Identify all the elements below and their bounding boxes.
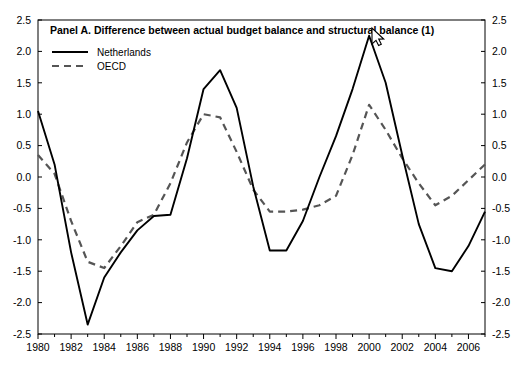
- x-tick-label: 1984: [93, 341, 117, 353]
- chart-figure: 2.52.01.51.00.50.0-0.5-1.0-1.5-2.0-2.5 2…: [0, 0, 516, 375]
- x-axis-labels: 1980198219841986198819901992199419961998…: [26, 341, 480, 353]
- x-tick-label: 2006: [457, 341, 481, 353]
- y-tick-label-right: -2.0: [492, 296, 510, 308]
- y-tick-label-right: -1.5: [492, 265, 510, 277]
- y-tick-label-right: 0.0: [492, 171, 507, 183]
- y-tick-label-left: 0.0: [16, 171, 31, 183]
- x-tick-label: 1980: [26, 341, 50, 353]
- x-tick-label: 1986: [126, 341, 150, 353]
- x-tick-label: 1990: [192, 341, 216, 353]
- y-tick-label-left: 1.0: [16, 108, 31, 120]
- x-tick-label: 1998: [324, 341, 348, 353]
- y-tick-label-right: 2.5: [492, 14, 507, 26]
- y-axis-right-labels: 2.52.01.51.00.50.0-0.5-1.0-1.5-2.0-2.5: [492, 14, 510, 340]
- y-tick-label-right: -2.5: [492, 328, 510, 340]
- y-tick-label-right: -1.0: [492, 234, 510, 246]
- x-axis-ticks: [38, 334, 485, 339]
- y-tick-label-right: 1.0: [492, 108, 507, 120]
- legend-label-netherlands: Netherlands: [97, 47, 151, 58]
- budget-balance-line-chart: 2.52.01.51.00.50.0-0.5-1.0-1.5-2.0-2.5 2…: [0, 0, 516, 375]
- legend-label-oecd: OECD: [97, 61, 126, 72]
- y-tick-label-left: 2.5: [16, 14, 31, 26]
- y-tick-label-left: -1.5: [13, 265, 31, 277]
- x-tick-label: 2002: [391, 341, 415, 353]
- y-tick-label-right: 1.5: [492, 77, 507, 89]
- y-tick-label-right: 0.5: [492, 139, 507, 151]
- y-tick-label-left: -1.0: [13, 234, 31, 246]
- x-tick-label: 1992: [225, 341, 249, 353]
- x-tick-label: 2004: [424, 341, 448, 353]
- x-tick-label: 1988: [159, 341, 183, 353]
- y-tick-label-left: -2.0: [13, 296, 31, 308]
- y-tick-label-left: -0.5: [13, 202, 31, 214]
- x-tick-label: 1982: [59, 341, 83, 353]
- y-tick-label-right: -0.5: [492, 202, 510, 214]
- y-axis-left-labels: 2.52.01.51.00.50.0-0.5-1.0-1.5-2.0-2.5: [13, 14, 31, 340]
- y-tick-label-left: -2.5: [13, 328, 31, 340]
- x-tick-label: 1994: [258, 341, 282, 353]
- y-tick-label-left: 1.5: [16, 77, 31, 89]
- y-tick-label-left: 0.5: [16, 139, 31, 151]
- y-tick-label-right: 2.0: [492, 45, 507, 57]
- x-tick-label: 1996: [291, 341, 315, 353]
- y-tick-label-left: 2.0: [16, 45, 31, 57]
- x-tick-label: 2000: [357, 341, 381, 353]
